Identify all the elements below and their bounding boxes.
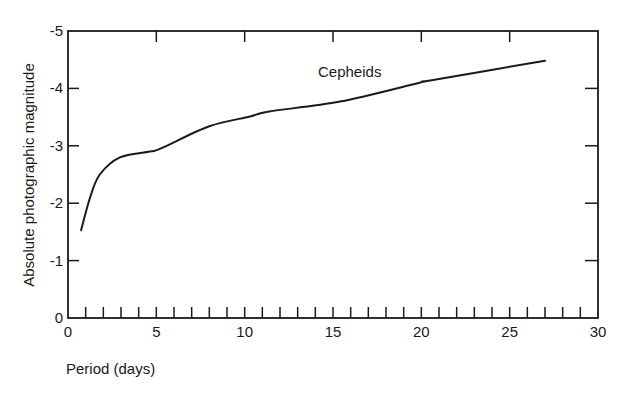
y-tick-label: -5 (50, 22, 63, 39)
y-tick-label: -3 (50, 137, 63, 154)
y-axis-title: Absolute photographic magnitude (20, 63, 37, 287)
y-axis-ticks (68, 88, 598, 260)
x-tick-label: 30 (590, 323, 607, 340)
y-tick-label: 0 (55, 309, 63, 326)
cepheids-label: Cepheids (318, 63, 381, 80)
x-tick-label: 20 (413, 323, 430, 340)
period-luminosity-chart: 051015202530 0-1-2-3-4-5 Cepheids Period… (0, 0, 626, 399)
x-axis-tick-labels: 051015202530 (64, 323, 607, 340)
x-tick-label: 0 (64, 323, 72, 340)
y-tick-label: -1 (50, 252, 63, 269)
x-tick-label: 5 (152, 323, 160, 340)
x-tick-label: 15 (325, 323, 342, 340)
x-tick-label: 25 (501, 323, 518, 340)
y-axis-tick-labels: 0-1-2-3-4-5 (50, 22, 63, 326)
cepheid-curve (81, 61, 545, 230)
y-tick-label: -4 (50, 79, 63, 96)
x-tick-label: 10 (236, 323, 253, 340)
y-tick-label: -2 (50, 194, 63, 211)
x-axis-title: Period (days) (66, 360, 155, 377)
